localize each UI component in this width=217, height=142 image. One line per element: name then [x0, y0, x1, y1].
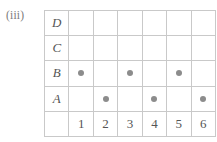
- column-header-row: 1 2 3 4 5 6: [45, 111, 216, 136]
- table-row: D: [45, 11, 216, 36]
- row-label-c: C: [45, 36, 69, 61]
- cell-c-6[interactable]: [191, 36, 215, 61]
- cell-a-4[interactable]: [142, 86, 166, 111]
- cell-d-6[interactable]: [191, 11, 215, 36]
- grid-plot: D C B: [44, 10, 208, 131]
- data-point-dot: [127, 70, 133, 76]
- row-label-d: D: [45, 11, 69, 36]
- data-point-dot: [176, 70, 182, 76]
- data-point-dot: [103, 96, 109, 102]
- data-point-dot: [200, 96, 206, 102]
- cell-b-5[interactable]: [167, 61, 191, 86]
- column-header-2: 2: [93, 111, 117, 136]
- row-label-a: A: [45, 86, 69, 111]
- cell-c-2[interactable]: [93, 36, 117, 61]
- column-header-4: 4: [142, 111, 166, 136]
- cell-d-4[interactable]: [142, 11, 166, 36]
- cell-b-3[interactable]: [118, 61, 142, 86]
- cell-b-6[interactable]: [191, 61, 215, 86]
- figure-container: (iii) D C: [0, 0, 217, 142]
- cell-a-5[interactable]: [167, 86, 191, 111]
- cell-c-4[interactable]: [142, 36, 166, 61]
- cell-b-1[interactable]: [69, 61, 93, 86]
- grid-table: D C B: [44, 10, 216, 137]
- table-row: A: [45, 86, 216, 111]
- cell-c-1[interactable]: [69, 36, 93, 61]
- cell-b-4[interactable]: [142, 61, 166, 86]
- cell-a-6[interactable]: [191, 86, 215, 111]
- column-header-3: 3: [118, 111, 142, 136]
- corner-cell: [45, 111, 69, 136]
- cell-a-3[interactable]: [118, 86, 142, 111]
- part-label: (iii): [6, 9, 40, 22]
- column-header-6: 6: [191, 111, 215, 136]
- data-point-dot: [78, 70, 84, 76]
- cell-b-2[interactable]: [93, 61, 117, 86]
- grid-body: D C B: [45, 11, 216, 137]
- cell-d-3[interactable]: [118, 11, 142, 36]
- cell-a-1[interactable]: [69, 86, 93, 111]
- cell-d-2[interactable]: [93, 11, 117, 36]
- cell-d-5[interactable]: [167, 11, 191, 36]
- table-row: C: [45, 36, 216, 61]
- row-label-b: B: [45, 61, 69, 86]
- cell-d-1[interactable]: [69, 11, 93, 36]
- column-header-1: 1: [69, 111, 93, 136]
- column-header-5: 5: [167, 111, 191, 136]
- data-point-dot: [151, 96, 157, 102]
- cell-a-2[interactable]: [93, 86, 117, 111]
- table-row: B: [45, 61, 216, 86]
- cell-c-3[interactable]: [118, 36, 142, 61]
- cell-c-5[interactable]: [167, 36, 191, 61]
